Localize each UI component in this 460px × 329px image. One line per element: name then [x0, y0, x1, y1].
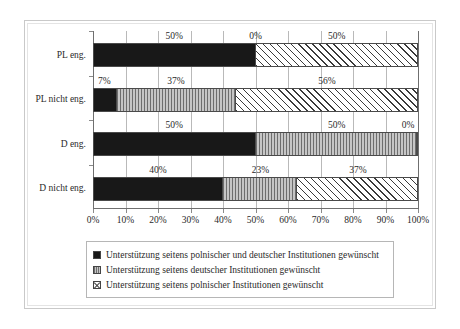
category-label: D nicht eng.: [39, 183, 86, 194]
legend-item: Unterstützung seitens deutscher Institut…: [93, 262, 387, 277]
data-label: 23%: [252, 165, 269, 176]
legend-swatch-icon: [93, 266, 101, 274]
category-label: PL eng.: [57, 50, 86, 61]
data-label: 50%: [166, 120, 183, 131]
data-label: 40%: [149, 165, 166, 176]
data-label: 0%: [402, 120, 415, 131]
data-label: 7%: [98, 76, 111, 87]
x-axis-tick: [418, 209, 419, 213]
x-axis-tick: [93, 209, 94, 213]
x-axis: 0%10%20%30%40%50%60%70%80%90%100%: [93, 209, 418, 229]
legend-item: Unterstützung seitens polnischer Institu…: [93, 277, 387, 292]
data-label: 50%: [328, 120, 345, 131]
x-axis-tick: [288, 209, 289, 213]
stacked-bar[interactable]: [93, 177, 418, 201]
x-axis-tick: [386, 209, 387, 213]
y-axis-tick: [89, 76, 93, 77]
gridline: [418, 31, 419, 209]
bar-segment[interactable]: [94, 89, 117, 111]
bar-segment[interactable]: [223, 178, 297, 200]
data-label: 37%: [167, 76, 184, 87]
x-axis-tick: [158, 209, 159, 213]
bar-segment[interactable]: [94, 178, 223, 200]
stacked-bar[interactable]: [93, 132, 418, 156]
stacked-bar[interactable]: [93, 88, 418, 112]
x-axis-tick-label: 0%: [87, 214, 100, 226]
x-axis-tick-label: 50%: [247, 214, 264, 226]
category-label: PL nicht eng.: [35, 94, 86, 105]
y-axis-tick: [89, 165, 93, 166]
plot-area: PL eng.50%0%50%PL nicht eng.7%37%56%D en…: [93, 31, 418, 209]
x-axis-tick-label: 90%: [377, 214, 394, 226]
data-label: 50%: [328, 31, 345, 42]
data-label: 50%: [166, 31, 183, 42]
y-axis-tick: [89, 31, 93, 32]
bar-row: PL nicht eng.7%37%56%: [93, 88, 418, 112]
x-axis-tick-label: 70%: [312, 214, 329, 226]
bar-row: PL eng.50%0%50%: [93, 43, 418, 67]
legend-item-label: Unterstützung seitens polnischer und deu…: [106, 249, 379, 261]
x-axis-tick-label: 30%: [182, 214, 199, 226]
legend-item-label: Unterstützung seitens deutscher Institut…: [106, 264, 320, 276]
bar-segment[interactable]: [94, 133, 256, 155]
bar-row: D eng.50%50%0%: [93, 132, 418, 156]
chart-figure: PL eng.50%0%50%PL nicht eng.7%37%56%D en…: [24, 20, 436, 309]
x-axis-tick: [256, 209, 257, 213]
bar-row: D nicht eng.40%23%37%: [93, 177, 418, 201]
bar-segment[interactable]: [117, 89, 237, 111]
legend-item-label: Unterstützung seitens polnischer Institu…: [106, 279, 323, 291]
x-axis-tick-label: 100%: [407, 214, 429, 226]
x-axis-tick-label: 20%: [149, 214, 166, 226]
x-axis-tick: [191, 209, 192, 213]
data-label: 56%: [318, 76, 335, 87]
x-axis-tick: [223, 209, 224, 213]
x-axis-tick-label: 80%: [344, 214, 361, 226]
bar-segment[interactable]: [297, 178, 417, 200]
x-axis-tick-label: 40%: [214, 214, 231, 226]
legend-swatch-icon: [93, 251, 101, 259]
y-axis-tick: [89, 120, 93, 121]
bar-segment[interactable]: [256, 44, 418, 66]
data-label: 37%: [349, 165, 366, 176]
chart-legend: Unterstützung seitens polnischer und deu…: [86, 241, 394, 298]
x-axis-tick: [321, 209, 322, 213]
bar-segment[interactable]: [256, 133, 418, 155]
x-axis-tick: [126, 209, 127, 213]
bar-segment[interactable]: [236, 89, 417, 111]
legend-swatch-icon: [93, 281, 101, 289]
x-axis-tick-label: 10%: [117, 214, 134, 226]
category-label: D eng.: [61, 139, 86, 150]
x-axis-tick: [353, 209, 354, 213]
bar-segment[interactable]: [94, 44, 256, 66]
x-axis-tick-label: 60%: [279, 214, 296, 226]
data-label: 0%: [249, 31, 262, 42]
legend-item: Unterstützung seitens polnischer und deu…: [93, 247, 387, 262]
stacked-bar[interactable]: [93, 43, 418, 67]
